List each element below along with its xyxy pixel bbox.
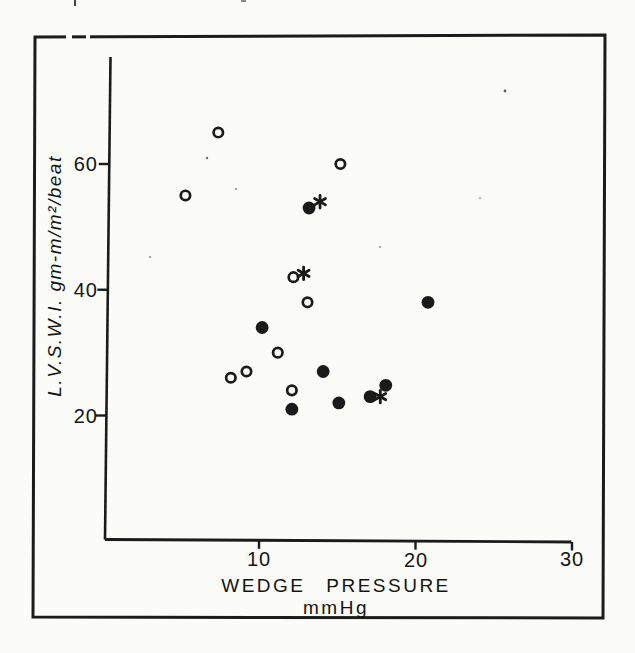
y-tick-label-40: 40 <box>58 278 98 302</box>
data-points <box>181 128 435 416</box>
scan-specks <box>149 90 507 259</box>
frame-dash-gap <box>86 32 90 39</box>
x-tick-label-10: 10 <box>234 547 284 571</box>
y-tick-label-60: 60 <box>58 152 98 176</box>
scanned-scatter-figure: L.V.S.W.I. gm-m/m²/beat WEDGE PRESSURE m… <box>0 0 635 653</box>
x-axis-label: WEDGE PRESSURE mmHg <box>186 575 486 619</box>
y-tick-label-20: 20 <box>58 404 98 428</box>
figure-border-frame <box>33 35 605 618</box>
x-tick-label-30: 30 <box>547 547 597 571</box>
scatter-plot-canvas <box>0 0 635 653</box>
y-axis <box>105 57 111 540</box>
axis-ticks <box>96 164 572 551</box>
x-tick-label-20: 20 <box>391 548 441 572</box>
frame-dash-gap <box>66 32 72 39</box>
x-axis <box>105 540 572 543</box>
